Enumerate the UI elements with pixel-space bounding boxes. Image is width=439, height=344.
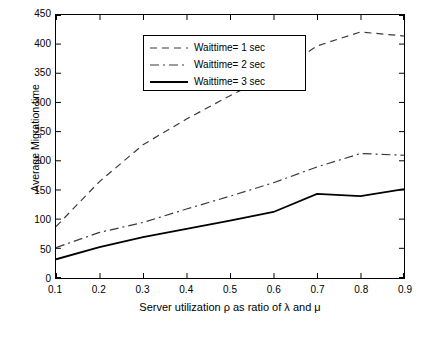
legend-item-0: Waittime= 1 sec — [144, 39, 305, 56]
legend-swatch-solid — [149, 76, 189, 88]
x-tick-0: 0.1 — [35, 285, 75, 295]
y-tick-1: 50 — [17, 245, 51, 255]
legend-swatch-dashed — [149, 42, 189, 54]
chart-figure: 0 50 100 150 200 250 300 350 400 450 — [0, 0, 439, 344]
x-tick-5: 0.6 — [254, 285, 294, 295]
x-axis-title: Server utilization ρ as ratio of λ and μ — [55, 301, 405, 313]
legend-label-1: Waittime= 2 sec — [194, 59, 265, 70]
x-tick-6: 0.7 — [298, 285, 338, 295]
x-tick-4: 0.5 — [210, 285, 250, 295]
x-tick-3: 0.4 — [166, 285, 206, 295]
x-tick-1: 0.2 — [79, 285, 119, 295]
chart-legend: Waittime= 1 sec Waittime= 2 sec Waittime… — [143, 35, 306, 91]
x-axis-tick-labels: 0.1 0.2 0.3 0.4 0.5 0.6 0.7 0.8 0.9 — [55, 285, 405, 299]
plot-area: Waittime= 1 sec Waittime= 2 sec Waittime… — [55, 14, 405, 279]
series-line-waittime-3-sec — [56, 189, 404, 259]
y-tick-0: 0 — [17, 274, 51, 284]
legend-item-1: Waittime= 2 sec — [144, 56, 305, 73]
series-line-waittime-2-sec — [56, 154, 404, 248]
x-tick-7: 0.8 — [341, 285, 381, 295]
y-axis-title: Average Migration time — [29, 38, 41, 238]
x-tick-2: 0.3 — [123, 285, 163, 295]
x-tick-8: 0.9 — [385, 285, 425, 295]
legend-label-0: Waittime= 1 sec — [194, 42, 265, 53]
legend-item-2: Waittime= 3 sec — [144, 73, 305, 90]
legend-swatch-dash-dot — [149, 59, 189, 71]
legend-label-2: Waittime= 3 sec — [194, 76, 265, 87]
y-tick-9: 450 — [17, 9, 51, 19]
